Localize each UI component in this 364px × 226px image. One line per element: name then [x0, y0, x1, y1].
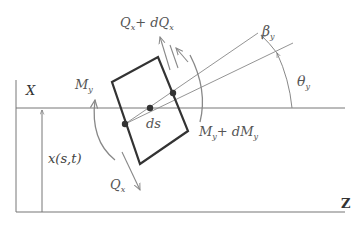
moment-left-label: My: [75, 78, 93, 94]
z-axis-label: Z: [341, 197, 351, 210]
node-center: [147, 105, 153, 111]
shear-top-arrow-3: [176, 48, 188, 62]
moment-right-arrow: [190, 55, 202, 122]
shear-bottom-label: Qx: [110, 178, 125, 194]
beta-label: βy: [262, 24, 275, 41]
node-right: [170, 90, 176, 96]
diagram-canvas: [0, 0, 364, 226]
theta-label: θy: [297, 74, 310, 91]
normal-ray: [125, 33, 258, 124]
element-label: ds: [146, 117, 161, 130]
shear-top-label: Qx+ dQx: [120, 16, 174, 32]
displacement-label: x(s,t): [48, 152, 82, 165]
beam-element-diagram: X Z Qx+ dQx βy θy My ds My+ dMy x(s,t) Q…: [0, 0, 364, 226]
x-axis-label: X: [26, 84, 35, 97]
node-left: [122, 121, 128, 127]
theta-arc: [277, 53, 292, 108]
tangent-ray: [125, 43, 293, 124]
moment-left-arrow: [94, 100, 115, 160]
moment-right-label: My+ dMy: [199, 125, 258, 141]
